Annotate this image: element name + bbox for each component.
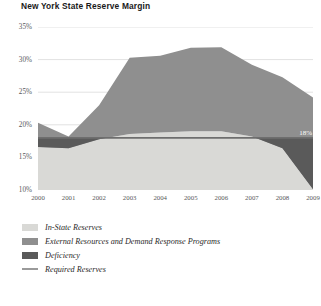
legend-swatch-external-resources (22, 238, 38, 245)
plot-area (38, 27, 313, 190)
legend-swatch-required-reserves (22, 268, 38, 270)
annotation-18-percent: 18% (299, 129, 312, 137)
legend-label: In-State Reserves (45, 223, 102, 232)
legend-swatch-deficiency (22, 252, 38, 259)
legend-item[interactable]: Required Reserves (22, 262, 312, 276)
legend-item[interactable]: External Resources and Demand Response P… (22, 234, 312, 248)
area-chart-svg (38, 27, 313, 190)
y-axis-tick-label: 10% (2, 186, 32, 194)
chart-container: New York State Reserve Margin 10% 15% 20… (0, 0, 321, 306)
y-axis-tick-label: 20% (2, 121, 32, 129)
y-axis-tick-label: 15% (2, 153, 32, 161)
legend-swatch-in-state-reserves (22, 224, 38, 231)
legend-label: External Resources and Demand Response P… (45, 237, 220, 246)
chart-legend: In-State Reserves External Resources and… (22, 220, 312, 276)
legend-item[interactable]: Deficiency (22, 248, 312, 262)
legend-label: Deficiency (45, 251, 80, 260)
legend-label: Required Reserves (45, 265, 106, 274)
legend-item[interactable]: In-State Reserves (22, 220, 312, 234)
y-axis-tick-label: 25% (2, 88, 32, 96)
page-title: New York State Reserve Margin (21, 1, 150, 11)
y-axis-tick-label: 35% (2, 23, 32, 31)
y-axis-tick-label: 30% (2, 56, 32, 64)
x-axis-tick-label: 2009 (295, 194, 321, 201)
